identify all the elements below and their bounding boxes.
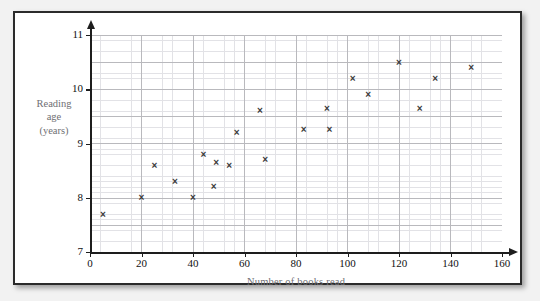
data-point bbox=[349, 75, 356, 82]
data-point bbox=[432, 75, 439, 82]
y-axis-title-line: Reading bbox=[24, 97, 84, 110]
data-point bbox=[233, 129, 240, 136]
x-tick-label: 100 bbox=[339, 258, 356, 269]
y-axis-arrow-icon bbox=[87, 20, 95, 29]
x-tick-label: 160 bbox=[494, 258, 511, 269]
x-tick-label: 60 bbox=[239, 258, 250, 269]
data-point bbox=[256, 107, 263, 114]
x-tick-label: 0 bbox=[87, 258, 93, 269]
data-point bbox=[99, 211, 106, 218]
y-axis-title-line: age bbox=[24, 110, 84, 123]
chart-page: 7891011 020406080100120140160 Readingage… bbox=[0, 0, 540, 301]
chart-frame: 7891011 020406080100120140160 Readingage… bbox=[13, 11, 522, 285]
y-tick-label: 8 bbox=[78, 192, 84, 203]
data-point bbox=[138, 194, 145, 201]
y-tick bbox=[86, 35, 91, 36]
scatter-plot: 7891011 020406080100120140160 Readingage… bbox=[90, 35, 502, 252]
y-tick bbox=[86, 144, 91, 145]
data-point bbox=[365, 91, 372, 98]
data-point bbox=[213, 159, 220, 166]
data-point bbox=[190, 194, 197, 201]
x-tick-label: 40 bbox=[188, 258, 199, 269]
data-point bbox=[171, 178, 178, 185]
y-axis-line bbox=[90, 26, 92, 252]
data-point bbox=[323, 105, 330, 112]
plot-gridlines bbox=[90, 35, 502, 252]
data-point bbox=[226, 162, 233, 169]
x-axis-title: Number of books read bbox=[90, 276, 502, 287]
data-point bbox=[210, 183, 217, 190]
x-tick-label: 140 bbox=[442, 258, 459, 269]
x-axis-line bbox=[90, 252, 511, 254]
y-axis-title: Readingage(years) bbox=[24, 97, 84, 137]
data-point bbox=[468, 64, 475, 71]
y-tick-label: 7 bbox=[78, 246, 84, 257]
data-point bbox=[262, 156, 269, 163]
y-axis-title-line: (years) bbox=[24, 124, 84, 137]
x-tick-label: 80 bbox=[291, 258, 302, 269]
data-point bbox=[416, 105, 423, 112]
data-point bbox=[326, 126, 333, 133]
x-tick-label: 20 bbox=[136, 258, 147, 269]
y-tick bbox=[86, 89, 91, 90]
y-tick-label: 11 bbox=[72, 29, 83, 40]
data-point bbox=[396, 59, 403, 66]
data-point bbox=[200, 151, 207, 158]
x-tick-label: 120 bbox=[391, 258, 408, 269]
y-tick-label: 9 bbox=[78, 138, 84, 149]
y-tick bbox=[86, 198, 91, 199]
data-point bbox=[151, 162, 158, 169]
y-tick-label: 10 bbox=[72, 83, 83, 94]
x-axis-arrow-icon bbox=[509, 248, 518, 256]
data-point bbox=[300, 126, 307, 133]
